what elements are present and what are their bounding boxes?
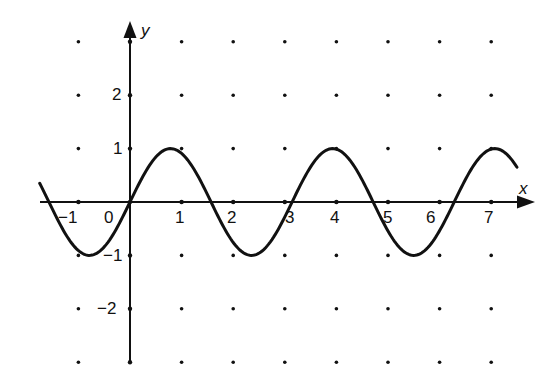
- grid-dot: [386, 254, 390, 258]
- grid-dot: [231, 40, 235, 44]
- grid-dot: [180, 360, 184, 364]
- grid-dot: [180, 307, 184, 311]
- grid-dot: [489, 360, 493, 364]
- grid-dot: [231, 307, 235, 311]
- grid-dot: [283, 40, 287, 44]
- grid-dot: [335, 40, 339, 44]
- y-tick-label-neg1: −1: [103, 246, 122, 265]
- x-axis-label: x: [518, 179, 528, 198]
- grid-dot: [438, 254, 442, 258]
- x-tick-label-neg1: −1: [58, 208, 77, 227]
- grid-dot: [77, 93, 81, 97]
- grid-dot: [231, 360, 235, 364]
- grid-dot: [386, 93, 390, 97]
- grid-dot: [335, 254, 339, 258]
- y-tick-label-1: 1: [113, 139, 122, 158]
- x-tick-label-1: 1: [175, 208, 184, 227]
- grid-dot: [231, 147, 235, 151]
- grid-dot: [386, 307, 390, 311]
- x-tick-label-2: 2: [227, 208, 236, 227]
- grid-dot: [489, 307, 493, 311]
- x-tick-label-6: 6: [426, 208, 435, 227]
- grid-dot: [283, 360, 287, 364]
- grid-dot: [77, 147, 81, 151]
- grid-dot: [438, 147, 442, 151]
- grid-dot: [335, 307, 339, 311]
- grid-dot: [386, 360, 390, 364]
- grid-dot: [283, 93, 287, 97]
- grid-dot: [180, 93, 184, 97]
- x-tick-label-0: 0: [104, 208, 113, 227]
- sine-chart: y x −1 0 1 2 3 4 5 6 7 2 1 −1 −2: [0, 0, 560, 384]
- x-tick-label-7: 7: [484, 208, 493, 227]
- grid-dot: [489, 93, 493, 97]
- y-tick-label-neg2: −2: [97, 299, 116, 318]
- grid-dot: [335, 360, 339, 364]
- grid-dot: [438, 360, 442, 364]
- grid-dot: [231, 93, 235, 97]
- grid-dot: [489, 40, 493, 44]
- y-tick-label-2: 2: [112, 85, 121, 104]
- x-tick-label-3: 3: [285, 208, 294, 227]
- x-tick-label-5: 5: [383, 208, 392, 227]
- grid-dot: [438, 307, 442, 311]
- grid-dot: [231, 254, 235, 258]
- grid-dot: [180, 40, 184, 44]
- grid-dot: [283, 254, 287, 258]
- grid-dot: [77, 254, 81, 258]
- grid-dot: [438, 93, 442, 97]
- grid-dot: [386, 147, 390, 151]
- grid-dot: [489, 254, 493, 258]
- y-axis-arrow-icon: [124, 21, 137, 38]
- grid-dot: [283, 147, 287, 151]
- grid-dot: [77, 307, 81, 311]
- grid-dot: [335, 93, 339, 97]
- y-axis-label: y: [140, 21, 151, 40]
- grid-dot: [180, 254, 184, 258]
- grid-dot: [283, 307, 287, 311]
- grid-dot: [77, 360, 81, 364]
- grid-dot: [180, 147, 184, 151]
- grid-dot: [77, 40, 81, 44]
- x-tick-label-4: 4: [330, 208, 339, 227]
- grid-dot: [438, 40, 442, 44]
- grid-dot: [386, 40, 390, 44]
